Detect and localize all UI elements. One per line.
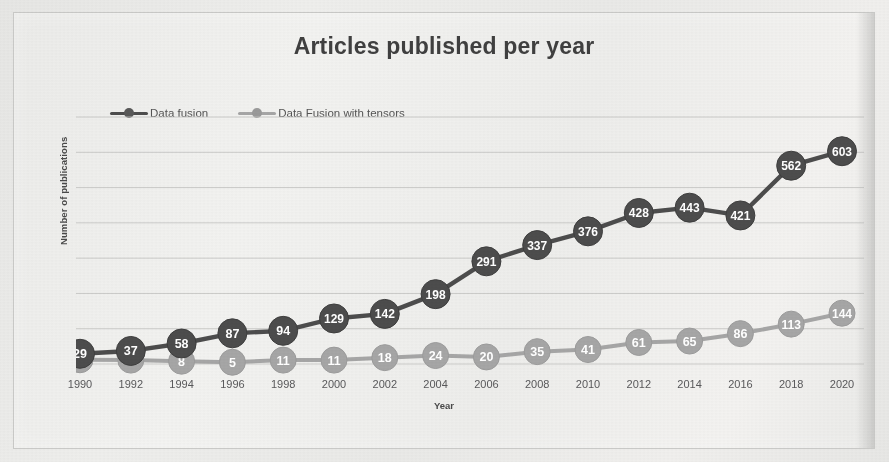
data-point-label: 58	[175, 337, 189, 351]
line-chart-svg: 12118511111824203541616586113144 2937588…	[76, 71, 864, 376]
data-point-label: 113	[782, 318, 802, 332]
data-point-label: 61	[632, 336, 646, 350]
data-point-label: 603	[832, 145, 852, 159]
chart-title: Articles published per year	[14, 33, 874, 60]
data-point-label: 5	[229, 356, 236, 370]
x-axis-tick-label: 2000	[322, 378, 346, 390]
data-point-label: 337	[527, 239, 547, 253]
data-point-label: 11	[277, 354, 290, 368]
scanned-figure-page: Articles published per year Data fusion …	[0, 0, 889, 462]
x-axis-tick-label: 2004	[423, 378, 447, 390]
data-point-label: 443	[680, 201, 700, 215]
chart-figure-card: Articles published per year Data fusion …	[13, 12, 875, 449]
data-point-label: 86	[733, 327, 747, 341]
x-axis-tick-label: 2018	[779, 378, 803, 390]
data-point-label: 291	[476, 255, 496, 269]
x-axis-title: Year	[14, 400, 874, 411]
data-point-label: 29	[76, 347, 87, 361]
x-axis-tick-label: 2008	[525, 378, 549, 390]
data-point-label: 65	[683, 335, 697, 349]
plot-area: 12118511111824203541616586113144 2937588…	[76, 71, 864, 376]
x-axis-tick-label: 2002	[373, 378, 397, 390]
data-point-label: 94	[276, 324, 290, 338]
x-axis-tick-label: 2014	[677, 378, 701, 390]
x-axis-tick-label: 1990	[68, 378, 92, 390]
x-axis-tick-label: 2010	[576, 378, 600, 390]
x-axis-tick-label: 1994	[169, 378, 193, 390]
data-point-label: 18	[378, 351, 392, 365]
data-point-label: 24	[429, 349, 443, 363]
data-point-label: 562	[781, 159, 801, 173]
data-point-label: 37	[124, 344, 138, 358]
data-point-label: 41	[581, 343, 595, 357]
data-point-label: 198	[426, 288, 446, 302]
series-line-data-fusion	[80, 151, 842, 354]
x-axis-tick-labels: 1990199219941996199820002002200420062008…	[76, 378, 864, 394]
data-point-label: 129	[324, 312, 344, 326]
data-point-label: 35	[530, 345, 544, 359]
data-point-label: 87	[225, 327, 239, 341]
x-axis-tick-label: 1996	[220, 378, 244, 390]
y-axis-title: Number of publications	[58, 137, 69, 245]
x-axis-tick-label: 1998	[271, 378, 295, 390]
data-point-label: 144	[832, 307, 852, 321]
x-axis-tick-label: 2012	[627, 378, 651, 390]
x-axis-tick-label: 1992	[119, 378, 143, 390]
x-axis-tick-label: 2020	[830, 378, 854, 390]
x-axis-tick-label: 2006	[474, 378, 498, 390]
data-point-label: 142	[375, 307, 395, 321]
data-point-label: 11	[327, 354, 340, 368]
data-point-label: 428	[629, 206, 649, 220]
x-axis-tick-label: 2016	[728, 378, 752, 390]
data-point-label: 20	[479, 350, 493, 364]
data-point-label: 376	[578, 225, 598, 239]
data-point-label: 421	[730, 209, 750, 223]
